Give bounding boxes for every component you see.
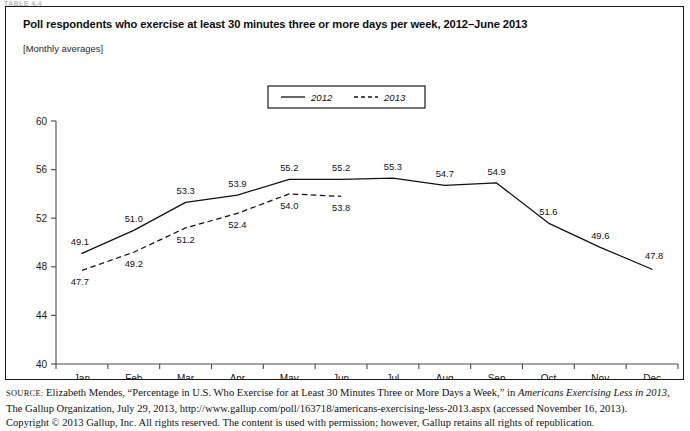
data-label-2013-feb: 49.2 [125,258,143,269]
y-tick-label-52: 52 [36,213,48,224]
line-chart: 404448525660 JanFebMarAprMayJunJulAugSep… [6,7,685,379]
y-tick-label-40: 40 [36,359,48,370]
x-tick-label-jun: Jun [333,373,349,379]
axis-lines [56,121,678,364]
data-label-2012-jun: 55.2 [332,162,350,173]
y-axis-ticks [51,121,56,364]
source-note-line-3: Copyright © 2013 Gallup, Inc. All rights… [6,416,684,431]
data-label-2012-jan: 49.1 [71,236,89,247]
figure-container: Poll respondents who exercise at least 3… [5,6,684,380]
y-tick-label-56: 56 [36,164,48,175]
data-label-2013-may: 54.0 [280,200,298,211]
x-tick-label-jan: Jan [74,373,90,379]
x-tick-label-jul: Jul [387,373,400,379]
data-label-2013-jun: 53.8 [332,202,350,213]
chart-legend: 20122013 [268,86,425,108]
chart-data-labels: 49.151.053.353.955.255.255.354.754.951.6… [71,161,663,287]
legend-label-2013: 2013 [383,92,406,103]
x-axis-tick-labels: JanFebMarAprMayJunJulAugSepOctNovDec [74,373,661,379]
source-publication-title: Americans Exercising Less in 2013, [518,387,670,398]
source-line-1-text: Elizabeth Mendes, “Percentage in U.S. Wh… [43,387,518,398]
series-line-2013 [82,194,341,271]
source-note-line-2: The Gallup Organization, July 29, 2013, … [6,402,684,417]
x-tick-label-aug: Aug [436,373,454,379]
x-tick-label-feb: Feb [125,373,143,379]
x-tick-label-may: May [280,373,299,379]
chart-axes [56,121,678,364]
y-axis-tick-labels: 404448525660 [36,116,48,370]
data-label-2013-jan: 47.7 [71,276,89,287]
data-label-2012-feb: 51.0 [125,213,143,224]
y-tick-label-60: 60 [36,116,48,127]
y-tick-label-48: 48 [36,261,48,272]
data-label-2012-jul: 55.3 [384,161,402,172]
y-tick-label-44: 44 [36,310,48,321]
data-label-2012-nov: 49.6 [591,230,609,241]
source-label: SOURCE: [6,389,43,398]
data-label-2013-apr: 52.4 [228,219,246,230]
data-label-2012-apr: 53.9 [228,178,246,189]
data-label-2012-sep: 54.9 [487,166,505,177]
x-tick-label-dec: Dec [643,373,661,379]
x-tick-label-nov: Nov [591,373,609,379]
x-tick-label-mar: Mar [177,373,195,379]
x-tick-label-oct: Oct [541,373,557,379]
x-axis-ticks [56,364,678,369]
data-label-2012-aug: 54.7 [436,168,454,179]
x-tick-label-sep: Sep [488,373,506,379]
data-label-2013-mar: 51.2 [176,234,194,245]
chart-series-lines [82,178,652,270]
source-note-line-1: SOURCE: Elizabeth Mendes, “Percentage in… [6,386,684,402]
legend-label-2012: 2012 [310,92,333,103]
data-label-2012-dec: 47.8 [645,250,663,261]
x-tick-label-apr: Apr [230,373,246,379]
data-label-2012-oct: 51.6 [539,206,557,217]
data-label-2012-mar: 53.3 [176,185,194,196]
data-label-2012-may: 55.2 [280,162,298,173]
source-note: SOURCE: Elizabeth Mendes, “Percentage in… [6,386,684,431]
series-line-2012 [82,178,652,269]
